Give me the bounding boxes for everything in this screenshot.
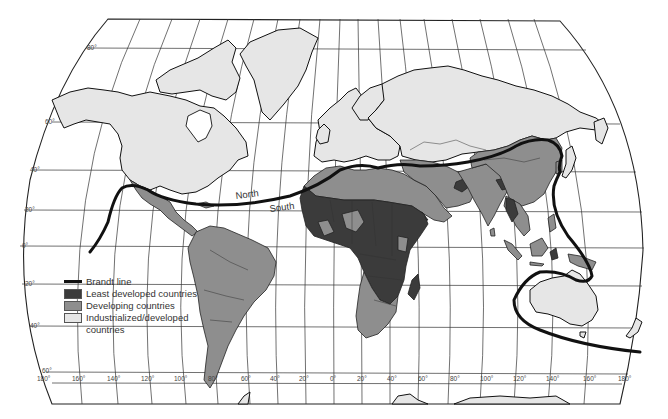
legend-item-industrialized-continuation: countries bbox=[64, 324, 197, 336]
north-label: North bbox=[235, 187, 259, 201]
legend-item-least-developed: Least developed countries bbox=[64, 288, 197, 300]
borneo bbox=[530, 238, 548, 256]
map-legend: Brandt line Least developed countries De… bbox=[64, 276, 197, 336]
landmasses bbox=[52, 28, 642, 404]
south-label: South bbox=[269, 200, 295, 214]
svg-text:80°: 80° bbox=[208, 375, 218, 382]
svg-text:160°: 160° bbox=[72, 375, 86, 382]
svg-text:20°: 20° bbox=[25, 206, 35, 213]
svg-text:40°: 40° bbox=[30, 166, 40, 173]
svg-text:140°: 140° bbox=[107, 375, 121, 382]
svg-text:20°: 20° bbox=[357, 375, 367, 382]
svg-text:100°: 100° bbox=[480, 375, 494, 382]
longitude-labels: 180° 160° 140° 120° 100° 80° 60° 40° 20°… bbox=[37, 375, 632, 382]
svg-text:60°: 60° bbox=[42, 367, 52, 374]
svg-text:60°: 60° bbox=[241, 375, 251, 382]
japan bbox=[562, 146, 576, 178]
north-america bbox=[52, 88, 248, 194]
svg-text:0°: 0° bbox=[22, 242, 29, 249]
svg-text:80°: 80° bbox=[450, 375, 460, 382]
svg-text:60°: 60° bbox=[45, 118, 55, 125]
greenland bbox=[240, 28, 318, 120]
legend-item-developing: Developing countries bbox=[64, 300, 197, 312]
svg-text:180°: 180° bbox=[37, 375, 51, 382]
industrialized-swatch bbox=[64, 313, 82, 323]
least-developed-swatch bbox=[64, 289, 82, 299]
svg-text:40°: 40° bbox=[30, 322, 40, 329]
south-america bbox=[188, 226, 276, 388]
sumatra bbox=[504, 240, 522, 260]
svg-text:120°: 120° bbox=[513, 375, 527, 382]
svg-text:20°: 20° bbox=[299, 375, 309, 382]
svg-text:0°: 0° bbox=[330, 375, 337, 382]
arctic-islands bbox=[156, 40, 240, 100]
svg-text:40°: 40° bbox=[270, 375, 280, 382]
svg-text:140°: 140° bbox=[546, 375, 560, 382]
svg-text:20°: 20° bbox=[25, 280, 35, 287]
madagascar bbox=[408, 274, 420, 300]
legend-item-brandt-line: Brandt line bbox=[64, 276, 197, 288]
svg-text:60°: 60° bbox=[418, 375, 428, 382]
svg-text:40°: 40° bbox=[387, 375, 397, 382]
brandt-line-swatch bbox=[64, 280, 82, 283]
svg-text:100°: 100° bbox=[174, 375, 188, 382]
developing-swatch bbox=[64, 301, 82, 311]
svg-text:160°: 160° bbox=[583, 375, 597, 382]
world-map: North South 80° 60° 40° 20° 0° 20° 40° 6… bbox=[0, 0, 668, 419]
legend-item-industrialized: Industrialized/developed bbox=[64, 312, 197, 324]
svg-text:80°: 80° bbox=[87, 44, 97, 51]
svg-text:120°: 120° bbox=[141, 375, 155, 382]
svg-text:180°: 180° bbox=[618, 375, 632, 382]
